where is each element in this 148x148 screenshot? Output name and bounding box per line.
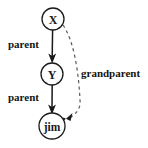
node-jim[interactable]: jim xyxy=(39,113,65,139)
node-jim-label: jim xyxy=(43,121,61,134)
edge-label-grandparent-x-jim: grandparent xyxy=(81,67,140,79)
relation-graph: X Y jim parent parent grandparent xyxy=(0,0,148,148)
edge-y-to-jim-parent[interactable] xyxy=(48,85,56,115)
edge-label-parent-y-jim: parent xyxy=(8,91,39,103)
edge-x-to-jim-dashed-path xyxy=(63,25,80,119)
node-x[interactable]: X xyxy=(42,8,64,30)
node-y[interactable]: Y xyxy=(41,63,63,85)
edge-label-parent-x-y: parent xyxy=(8,38,39,50)
diagram-canvas: X Y jim parent parent grandparent xyxy=(0,0,148,148)
edge-x-to-y-parent[interactable] xyxy=(48,30,56,64)
node-x-label: X xyxy=(49,13,58,27)
node-y-label: Y xyxy=(48,68,57,82)
